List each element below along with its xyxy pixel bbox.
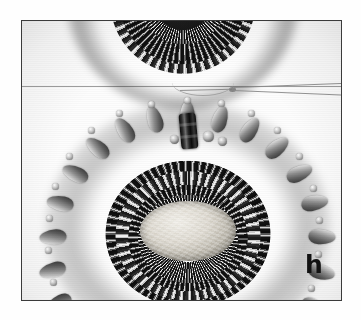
cabochon-texture xyxy=(140,201,236,261)
fringe-petal xyxy=(143,104,166,134)
cylinder-bead-band xyxy=(179,122,196,126)
accent-bead xyxy=(170,135,179,144)
fringe-petal xyxy=(39,229,67,246)
fringe-petal xyxy=(308,229,336,245)
fringe-tip-bead xyxy=(248,110,255,117)
oval-cabochon-stone xyxy=(140,201,236,261)
panel-label: h xyxy=(305,252,323,277)
fringe-tip-bead xyxy=(50,279,57,286)
fringe-tip-bead xyxy=(88,127,95,134)
fringe-petal xyxy=(236,115,263,146)
oval-beaded-bezel xyxy=(52,109,324,300)
photo-canvas: h xyxy=(22,21,341,300)
fringe-tip-bead xyxy=(184,97,191,104)
fringe-tip-bead xyxy=(66,153,73,160)
accent-bead xyxy=(203,131,214,142)
fringe-tip-bead xyxy=(296,153,303,160)
fringe-petal xyxy=(299,294,330,300)
screenshot-root: h xyxy=(0,0,361,320)
fringe-tip-bead xyxy=(45,247,52,254)
fringe-tip-bead xyxy=(274,127,281,134)
fringe-tip-bead xyxy=(308,285,315,292)
accent-bead xyxy=(218,137,227,146)
beading-thread-curve xyxy=(172,69,234,96)
fringe-tip-bead xyxy=(218,100,225,107)
cylinder-bead-band xyxy=(180,134,197,138)
fringe-petal xyxy=(111,115,139,146)
fringe-tip-bead xyxy=(148,101,155,108)
fringe-petal xyxy=(209,104,231,134)
vertical-cylinder-bead xyxy=(178,112,198,149)
fringe-tip-bead xyxy=(316,217,323,224)
fringe-tip-bead xyxy=(46,215,53,222)
fringe-petal xyxy=(43,290,74,300)
fringe-tip-bead xyxy=(310,185,317,192)
fringe-tip-bead xyxy=(116,110,123,117)
fringe-petal xyxy=(38,259,68,281)
fringe-tip-bead xyxy=(52,183,59,190)
photo-frame: h xyxy=(21,20,342,301)
